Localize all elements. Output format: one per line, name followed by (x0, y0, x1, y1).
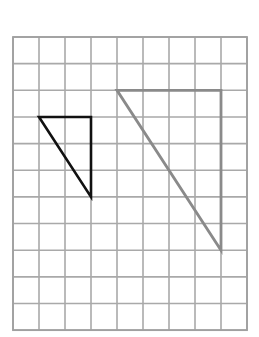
grid-border (13, 37, 247, 330)
grid (13, 37, 247, 330)
grid-diagram (0, 0, 259, 337)
